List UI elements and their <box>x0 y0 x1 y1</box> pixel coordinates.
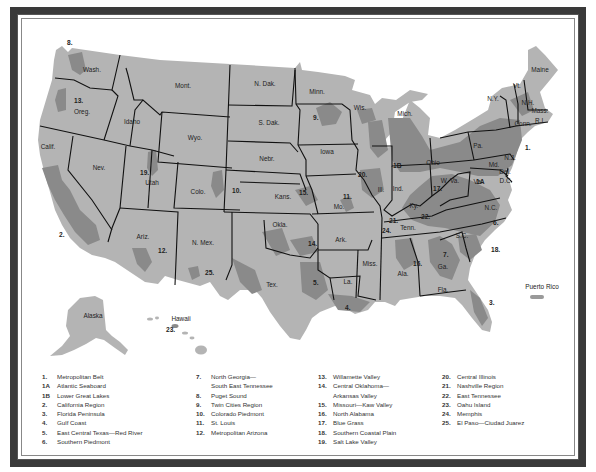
legend-item: 9.Twin Cities Region <box>196 400 273 409</box>
region-marker: 20. <box>358 171 367 178</box>
state-label: La. <box>344 278 353 285</box>
legend-label: Southern Coastal Plain <box>333 428 396 437</box>
region-marker: 6. <box>493 219 499 226</box>
legend-item: 24.Memphis <box>442 409 524 418</box>
legend-item: 15.Missouri—Kaw Valley <box>318 400 396 409</box>
legend-label: Salt Lake Valley <box>333 437 377 446</box>
legend-item: 8.Puget Sound <box>196 391 273 400</box>
legend-label: Lower Great Lakes <box>57 391 109 400</box>
legend-number: 9. <box>196 400 211 409</box>
state-label: Wash. <box>83 66 101 73</box>
legend-number: 1A <box>42 381 57 390</box>
legend-item: 3.Florida Peninsula <box>42 409 143 418</box>
legend-label: Blue Grass <box>333 418 364 427</box>
state-label: Kans. <box>275 193 292 200</box>
legend-item: 21.Nashville Region <box>442 381 524 390</box>
region-marker: 24. <box>382 227 391 234</box>
state-label: Mont. <box>175 82 191 89</box>
region-marker: 19. <box>140 169 149 176</box>
legend-item: 1.Metropolitan Belt <box>42 372 143 381</box>
legend-number: 19. <box>318 437 333 446</box>
legend-number: 15. <box>318 400 333 409</box>
state-label: N.J. <box>504 154 516 161</box>
legend-item: 17.Blue Grass <box>318 418 396 427</box>
state-label: Colo. <box>191 188 206 195</box>
region-marker: 4. <box>345 304 351 311</box>
legend-number: 22. <box>442 391 457 400</box>
state-label: Vt. <box>513 82 521 89</box>
region-marker: 15. <box>299 189 308 196</box>
state-label: Idaho <box>124 118 140 125</box>
legend-number: 11. <box>196 418 211 427</box>
legend-number: 1. <box>42 372 57 381</box>
legend-label: East Tennessee <box>457 391 501 400</box>
legend-item: 22.East Tennessee <box>442 391 524 400</box>
state-label: Minn. <box>309 88 325 95</box>
legend-label: Southern Piedmont <box>57 437 110 446</box>
legend-column-1: 1.Metropolitan Belt1AAtlantic Seaboard1B… <box>42 372 143 446</box>
legend-number: 24. <box>442 409 457 418</box>
legend-item: 16.North Alabama <box>318 409 396 418</box>
region-marker: 7. <box>443 251 449 258</box>
legend-number: 13. <box>318 372 333 381</box>
legend-item: 20.Central Illinois <box>442 372 524 381</box>
legend-label: North Georgia— <box>211 372 256 381</box>
legend-number: 1B <box>42 391 57 400</box>
region-marker: 1B <box>393 162 402 169</box>
legend-label: St. Louis <box>211 418 235 427</box>
legend-column-2: 7.North Georgia—South East Tennessee8.Pu… <box>196 372 273 437</box>
state-label: Utah <box>145 179 159 186</box>
legend-number: 18. <box>318 428 333 437</box>
state-label: Conn. <box>514 120 531 127</box>
state-label: Oreg. <box>74 108 90 116</box>
state-label: Md. <box>489 161 500 168</box>
legend-item: 25.El Paso—Ciudad Juarez <box>442 418 524 427</box>
state-label: S.C. <box>456 232 469 239</box>
legend-number: 20. <box>442 372 457 381</box>
legend-item: 12.Metropolitan Arizona <box>196 428 273 437</box>
state-label: N. Dak. <box>254 80 276 87</box>
legend-item: 2.California Region <box>42 400 143 409</box>
region-marker: 21. <box>389 217 398 224</box>
legend-label: El Paso—Ciudad Juarez <box>457 418 524 427</box>
legend-label: Willamette Valley <box>333 372 380 381</box>
state-label: N.Y. <box>487 95 499 102</box>
state-label: Ala. <box>397 270 408 277</box>
legend-item: 5.East Central Texas—Red River <box>42 428 143 437</box>
state-label: Mo. <box>334 203 345 210</box>
state-label: Del. <box>499 168 511 175</box>
state-label: Ky. <box>410 202 419 210</box>
legend-number: 23. <box>442 400 457 409</box>
state-label: Ark. <box>335 236 347 243</box>
legend-label: Oahu Island <box>457 400 490 409</box>
region-marker: 9. <box>313 114 319 121</box>
state-label: Ind. <box>393 185 404 192</box>
state-label: Alaska <box>83 312 103 319</box>
legend-item: 11.St. Louis <box>196 418 273 427</box>
legend-item: 6.Southern Piedmont <box>42 437 143 446</box>
legend-item: 18.Southern Coastal Plain <box>318 428 396 437</box>
legend-label: Missouri—Kaw Valley <box>333 400 392 409</box>
state-label: Ariz. <box>137 233 150 240</box>
state-label: Nebr. <box>259 155 274 162</box>
state-label: Puerto Rico <box>525 283 559 290</box>
state-label: R.I. <box>535 117 545 124</box>
state-label: D.C. <box>500 177 513 184</box>
state-label: Hawaii <box>171 315 190 322</box>
legend-item: 13.Willamette Valley <box>318 372 396 381</box>
legend-label: Twin Cities Region <box>211 400 262 409</box>
region-marker: 10. <box>232 187 241 194</box>
region-marker: 12. <box>158 247 167 254</box>
legend-label: Nashville Region <box>457 381 503 390</box>
legend-number: 12. <box>196 428 211 437</box>
legend-number: 16. <box>318 409 333 418</box>
state-label: Wyo. <box>188 134 203 142</box>
region-marker: 11. <box>343 193 352 200</box>
legend-number: 21. <box>442 381 457 390</box>
legend-label: Gulf Coast <box>57 418 86 427</box>
legend-number: 2. <box>42 400 57 409</box>
legend-item: 1AAtlantic Seaboard <box>42 381 143 390</box>
state-label: Tenn. <box>400 224 416 231</box>
legend-label: Puget Sound <box>211 391 247 400</box>
state-label: W. Va. <box>441 177 460 184</box>
